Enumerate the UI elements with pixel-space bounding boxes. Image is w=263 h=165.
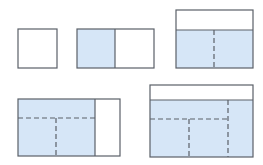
step-5-with-top-band <box>150 85 253 157</box>
rectangle-subdivision-diagram <box>0 0 263 165</box>
step-1-square <box>18 29 57 68</box>
step-2-double-square <box>77 29 154 68</box>
step-4-with-right-column <box>18 99 120 156</box>
step-3-with-top-band <box>176 10 253 68</box>
